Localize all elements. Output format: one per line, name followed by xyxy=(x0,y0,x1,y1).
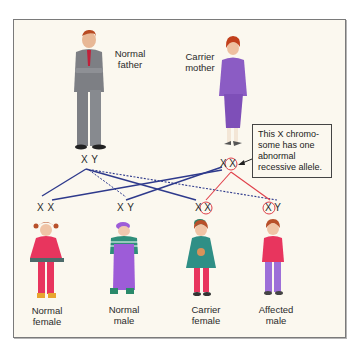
child2-chromosomes: X Y xyxy=(117,202,134,213)
child4-label: Affected male xyxy=(253,304,299,326)
child3-label-line1: Carrier xyxy=(184,304,228,315)
child4-label-line1: Affected xyxy=(253,304,299,315)
father-label-line2: father xyxy=(108,59,152,70)
child1-label-line2: female xyxy=(25,316,69,327)
child3-label-line2: female xyxy=(184,315,228,326)
mother-label-line2: mother xyxy=(180,62,220,73)
normal-female-figure xyxy=(30,222,64,298)
child1-chromosomes: X X xyxy=(37,202,55,213)
child1-label: Normal female xyxy=(25,305,69,327)
child4-normal-y: Y xyxy=(274,202,281,213)
normal-father-figure xyxy=(74,30,106,150)
child4-label-line2: male xyxy=(253,315,299,326)
abnormal-allele-callout: This X chromo-some has one abnormal rece… xyxy=(252,124,332,178)
normal-male-figure xyxy=(110,222,138,294)
mother-label: Carrier mother xyxy=(180,51,220,73)
mother-chromosomes: XX xyxy=(220,158,236,169)
child3-abnormal-x: X xyxy=(204,202,211,213)
father-label-line1: Normal xyxy=(108,48,152,59)
father-chromosomes: X Y xyxy=(81,154,98,165)
child3-chromosomes: XX xyxy=(195,202,211,213)
carrier-female-figure xyxy=(186,219,216,296)
child2-label: Normal male xyxy=(102,304,146,326)
child3-label: Carrier female xyxy=(184,304,228,326)
mother-normal-x: X xyxy=(220,158,227,169)
affected-male-figure xyxy=(262,219,284,295)
mother-label-line1: Carrier xyxy=(180,51,220,62)
carrier-mother-figure xyxy=(219,36,247,146)
child4-abnormal-x: X xyxy=(265,202,272,213)
father-label: Normal father xyxy=(108,48,152,70)
mother-abnormal-x: X xyxy=(229,158,236,169)
child2-label-line2: male xyxy=(102,315,146,326)
child2-label-line1: Normal xyxy=(102,304,146,315)
child1-label-line1: Normal xyxy=(25,305,69,316)
child3-normal-x: X xyxy=(195,202,202,213)
inheritance-lines xyxy=(42,159,277,200)
child4-chromosomes: XY xyxy=(265,202,281,213)
